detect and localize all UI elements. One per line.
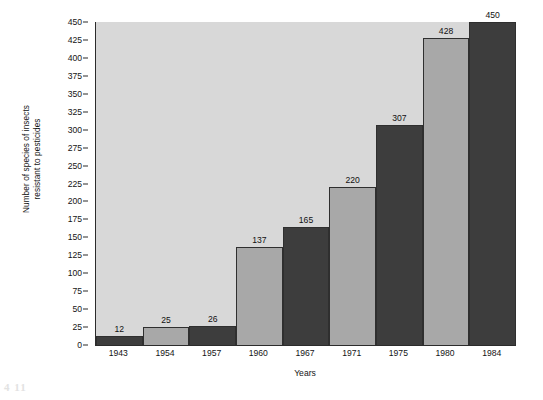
bar: 26 [189, 326, 236, 345]
bar-value-label: 307 [392, 113, 406, 123]
bar-slot: 428 [423, 22, 470, 345]
y-tick-mark [83, 273, 88, 274]
x-tick-label: 1954 [142, 348, 189, 358]
y-tick-label: 100 [68, 268, 82, 278]
y-tick-mark [83, 201, 88, 202]
y-tick-label: 450 [68, 17, 82, 27]
y-tick-mark [83, 129, 88, 130]
x-axis-title: Years [95, 368, 515, 378]
y-tick-mark [83, 183, 88, 184]
x-tick-label: 1943 [95, 348, 142, 358]
y-tick-label: 150 [68, 232, 82, 242]
bar-slot: 12 [96, 22, 143, 345]
bar: 220 [329, 187, 376, 345]
y-tick-label: 425 [68, 35, 82, 45]
y-tick-label: 325 [68, 107, 82, 117]
bar-value-label: 12 [115, 324, 125, 334]
y-tick-label: 50 [72, 304, 82, 314]
bar: 137 [236, 247, 283, 345]
x-tick-label: 1975 [375, 348, 422, 358]
bar-value-label: 220 [346, 175, 360, 185]
bar-value-label: 428 [439, 26, 453, 36]
y-tick-mark [83, 255, 88, 256]
bar: 12 [96, 336, 143, 345]
y-tick-label: 200 [68, 196, 82, 206]
plot-area: 122526137165220307428450 [95, 22, 516, 346]
bar: 450 [469, 22, 516, 345]
y-tick-label: 400 [68, 53, 82, 63]
y-tick-label: 225 [68, 179, 82, 189]
x-tick-label: 1960 [235, 348, 282, 358]
bar-value-label: 137 [252, 235, 266, 245]
bar-slot: 165 [283, 22, 330, 345]
y-tick-mark [83, 111, 88, 112]
x-tick-label: 1967 [282, 348, 329, 358]
x-tick-label: 1971 [328, 348, 375, 358]
y-tick-mark [83, 93, 88, 94]
y-tick-mark [83, 237, 88, 238]
bar-slot: 450 [469, 22, 516, 345]
page-corner-artifact: 4 11 [4, 381, 27, 393]
bar-value-label: 450 [486, 10, 500, 20]
bar-slot: 220 [329, 22, 376, 345]
y-tick-mark [83, 22, 88, 23]
y-tick-label: 300 [68, 125, 82, 135]
y-tick-mark [83, 291, 88, 292]
y-tick-mark [83, 309, 88, 310]
y-tick-mark [83, 57, 88, 58]
y-tick-mark [83, 165, 88, 166]
bar-value-label: 25 [161, 315, 171, 325]
x-axis-tick-labels: 194319541957196019671971197519801984 [95, 348, 515, 358]
y-tick-mark [83, 327, 88, 328]
y-tick-label: 25 [72, 322, 82, 332]
x-tick-label: 1980 [422, 348, 469, 358]
y-tick-label: 75 [72, 286, 82, 296]
y-tick-label: 250 [68, 161, 82, 171]
y-tick-label: 125 [68, 250, 82, 260]
y-axis-tick-labels: 0255075100125150175200225250275300325350… [52, 22, 88, 345]
y-tick-label: 175 [68, 214, 82, 224]
y-tick-label: 275 [68, 143, 82, 153]
x-tick-label: 1984 [468, 348, 515, 358]
y-axis-title: Number of species of insects resistant t… [21, 59, 43, 259]
bar-value-label: 26 [208, 314, 218, 324]
y-tick-mark [83, 39, 88, 40]
bar-slot: 307 [376, 22, 423, 345]
y-tick-label: 0 [77, 340, 82, 350]
y-tick-label: 350 [68, 89, 82, 99]
bar-slot: 26 [189, 22, 236, 345]
bar-chart-figure: Number of species of insects resistant t… [0, 0, 543, 400]
bar: 307 [376, 125, 423, 345]
y-tick-mark [83, 345, 88, 346]
bar: 428 [423, 38, 470, 345]
x-tick-label: 1957 [188, 348, 235, 358]
bar-series: 122526137165220307428450 [96, 22, 516, 345]
y-tick-mark [83, 219, 88, 220]
bar-slot: 137 [236, 22, 283, 345]
y-tick-mark [83, 75, 88, 76]
bar: 165 [283, 227, 330, 345]
bar-value-label: 165 [299, 215, 313, 225]
y-tick-mark [83, 147, 88, 148]
y-tick-label: 375 [68, 71, 82, 81]
bar-slot: 25 [143, 22, 190, 345]
bar: 25 [143, 327, 190, 345]
